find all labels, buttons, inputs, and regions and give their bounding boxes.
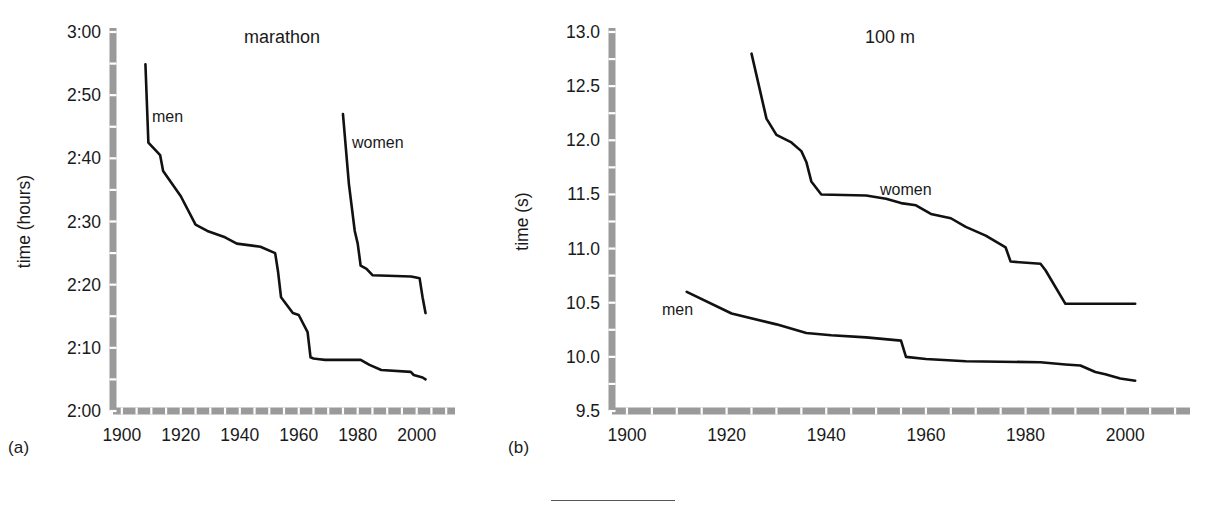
series-line-women [752, 54, 1136, 304]
marathon-chart-svg: 2:002:102:202:302:402:503:00190019201940… [0, 0, 520, 460]
figure-container: 2:002:102:202:302:402:503:00190019201940… [0, 0, 1218, 519]
y-tick-label: 11.0 [567, 239, 600, 259]
panel-caption-b: (b) [508, 438, 529, 458]
x-tick-label: 1940 [220, 425, 259, 445]
y-tick-label: 12.0 [566, 130, 600, 150]
x-tick-label: 1960 [279, 425, 318, 445]
hundred-meter-chart-svg: 9.510.010.511.011.512.012.513.0190019201… [500, 0, 1218, 460]
x-tick-label: 1940 [807, 425, 846, 445]
x-tick-label: 1900 [607, 425, 646, 445]
x-tick-label: 1920 [161, 425, 200, 445]
y-axis-title: time (s) [512, 192, 532, 250]
x-tick-label: 1960 [906, 425, 945, 445]
y-tick-label: 10.5 [566, 293, 600, 313]
series-label-women: women [879, 181, 932, 198]
y-tick-label: 12.5 [566, 76, 600, 96]
y-tick-label: 2:30 [67, 212, 101, 232]
series-label-men: men [152, 108, 183, 125]
panel-caption-a: (a) [8, 438, 29, 458]
y-tick-label: 3:00 [67, 22, 101, 42]
x-tick-label: 2000 [397, 425, 436, 445]
chart-panel-marathon: 2:002:102:202:302:402:503:00190019201940… [0, 0, 520, 519]
x-tick-label: 1920 [707, 425, 746, 445]
y-tick-label: 2:20 [67, 275, 101, 295]
footer-divider-rule [551, 500, 675, 501]
x-tick-label: 1980 [1006, 425, 1045, 445]
y-tick-label: 9.5 [576, 401, 600, 421]
y-tick-label: 10.0 [566, 347, 600, 367]
series-line-men [687, 292, 1135, 381]
series-line-men [145, 64, 425, 379]
x-tick-label: 2000 [1106, 425, 1145, 445]
y-tick-label: 2:50 [67, 85, 101, 105]
y-axis-title: time (hours) [14, 175, 34, 268]
y-tick-label: 11.5 [567, 184, 600, 204]
y-tick-label: 2:00 [67, 401, 101, 421]
series-label-women: women [351, 134, 404, 151]
plot-title: 100 m [865, 27, 915, 47]
x-tick-label: 1980 [338, 425, 377, 445]
chart-panel-100m: 9.510.010.511.011.512.012.513.0190019201… [500, 0, 1218, 519]
y-tick-label: 2:40 [67, 148, 101, 168]
series-label-men: men [662, 301, 693, 318]
plot-title: marathon [244, 27, 320, 47]
y-tick-label: 13.0 [566, 22, 600, 42]
x-tick-label: 1900 [102, 425, 141, 445]
y-tick-label: 2:10 [67, 338, 101, 358]
